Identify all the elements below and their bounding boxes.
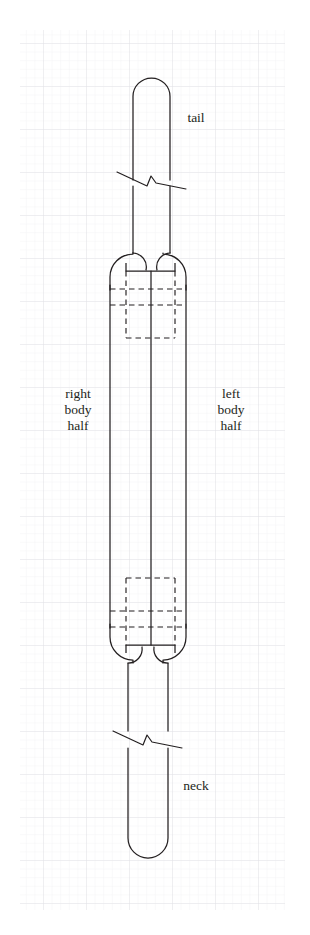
- label-left-body-half-line-2: body: [218, 402, 245, 417]
- label-right-body-half-line-3: half: [68, 418, 89, 433]
- label-left-body-half-line-3: half: [221, 418, 242, 433]
- background-grid: [20, 30, 285, 910]
- label-neck: neck: [183, 778, 209, 793]
- label-right-body-half: right body half: [65, 386, 92, 433]
- label-right-body-half-line-1: right: [65, 386, 91, 401]
- label-left-body-half-line-1: left: [222, 386, 240, 401]
- grid-area: [20, 30, 285, 910]
- label-tail: tail: [187, 110, 204, 125]
- pipette-schematic-svg: tail right body half left body half neck: [0, 0, 310, 935]
- label-right-body-half-line-2: body: [65, 402, 92, 417]
- figure-canvas: tail right body half left body half neck: [0, 0, 310, 935]
